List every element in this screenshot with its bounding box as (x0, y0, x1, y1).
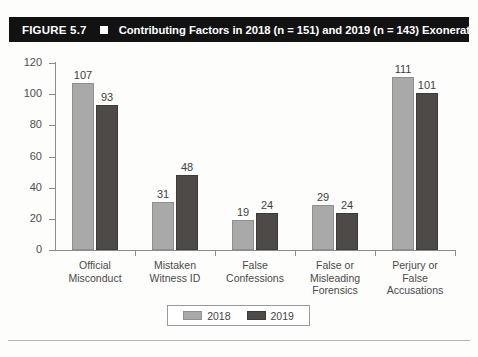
legend-swatch-icon-2018 (183, 311, 202, 320)
legend-entry-2018[interactable]: 2018 (183, 310, 230, 322)
y-axis-tick-label: 80 (30, 118, 42, 130)
bar-2019-group-3[interactable]: 24 (256, 213, 278, 250)
bar-2019-group-4[interactable]: 24 (336, 213, 358, 250)
legend-swatch-icon-2019 (247, 311, 266, 320)
figure-title-bar: FIGURE 5.7 Contributing Factors in 2018 … (9, 17, 469, 42)
x-axis-tick (215, 250, 216, 256)
y-axis-tick-label: 60 (30, 150, 42, 162)
page-divider-rule (8, 340, 470, 341)
category-label-3: False Confessions (215, 259, 295, 284)
bar-2019-group-5[interactable]: 101 (416, 93, 438, 250)
bar-2018-group-1[interactable]: 107 (72, 83, 94, 250)
bar-value-label: 19 (237, 206, 249, 218)
bar-2018-group-2[interactable]: 31 (152, 202, 174, 250)
chart-legend: 2018 2019 (167, 305, 310, 326)
bar-value-label: 24 (261, 199, 273, 211)
bar-2018-group-4[interactable]: 29 (312, 205, 334, 250)
figure-container: FIGURE 5.7 Contributing Factors in 2018 … (0, 0, 478, 357)
legend-label-2019: 2019 (271, 310, 294, 322)
bar-2019-group-2[interactable]: 48 (176, 175, 198, 250)
x-axis-tick (135, 250, 136, 256)
y-axis-tick: 0 (49, 250, 55, 251)
legend-label-2018: 2018 (207, 310, 230, 322)
category-label-2: Mistaken Witness ID (135, 259, 215, 284)
category-label-1: Official Misconduct (55, 259, 135, 284)
y-axis-tick-label: 40 (30, 181, 42, 193)
bar-value-label: 29 (317, 191, 329, 203)
category-label-4: False or Misleading Forensics (295, 259, 375, 297)
x-axis-line (55, 250, 456, 251)
bar-2018-group-5[interactable]: 111 (392, 77, 414, 250)
bar-value-label: 107 (74, 69, 92, 81)
y-axis-tick-label: 20 (30, 212, 42, 224)
figure-number-label: FIGURE 5.7 (22, 24, 87, 36)
bar-value-label: 48 (181, 161, 193, 173)
bar-2018-group-3[interactable]: 19 (232, 220, 254, 250)
x-axis-tick (295, 250, 296, 256)
legend-entry-2019[interactable]: 2019 (247, 310, 294, 322)
bar-value-label: 101 (418, 79, 436, 91)
plot-area: 10793314819242924111101 (55, 63, 455, 250)
category-label-5: Perjury or False Accusations (375, 259, 455, 297)
x-axis-tick (375, 250, 376, 256)
bar-value-label: 24 (341, 199, 353, 211)
y-axis-tick-label: 0 (36, 243, 42, 255)
filled-square-icon (100, 26, 108, 34)
figure-title: Contributing Factors in 2018 (n = 151) a… (119, 24, 478, 36)
bar-value-label: 31 (157, 188, 169, 200)
y-axis-tick-label: 100 (24, 87, 42, 99)
y-axis-tick-label: 120 (24, 56, 42, 68)
bar-value-label: 111 (395, 63, 412, 75)
bar-2019-group-1[interactable]: 93 (96, 105, 118, 250)
bar-value-label: 93 (101, 91, 113, 103)
x-axis-tick (455, 250, 456, 256)
